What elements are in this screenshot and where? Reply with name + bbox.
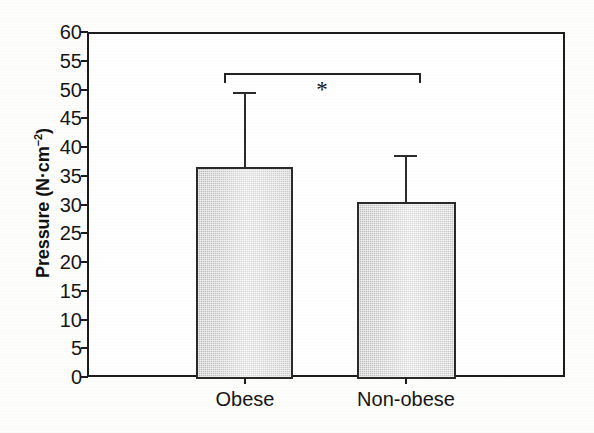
y-tick-label-40: 40 bbox=[38, 137, 82, 157]
x-tick-label-obese: Obese bbox=[216, 388, 275, 411]
significance-bracket-line bbox=[224, 73, 421, 75]
error-bar-cap-non-obese bbox=[394, 155, 417, 157]
x-tick-mark-non-obese bbox=[405, 377, 407, 384]
y-tick-label-0: 0 bbox=[38, 367, 82, 387]
error-bar-cap-obese bbox=[233, 92, 256, 94]
figure-container: Pressure (N·cm−2) 60 55 50 45 40 35 30 2… bbox=[0, 0, 594, 433]
bar-obese[interactable] bbox=[196, 167, 293, 379]
y-tick-label-10: 10 bbox=[38, 310, 82, 330]
error-bar-stem-non-obese bbox=[405, 155, 407, 203]
y-tick-label-30: 30 bbox=[38, 195, 82, 215]
y-tick-label-15: 15 bbox=[38, 281, 82, 301]
x-tick-label-non-obese: Non-obese bbox=[357, 388, 455, 411]
y-tick-label-60: 60 bbox=[38, 22, 82, 42]
y-tick-label-55: 55 bbox=[38, 51, 82, 71]
significance-bracket-right-tick bbox=[419, 73, 421, 83]
y-tick-label-5: 5 bbox=[38, 338, 82, 358]
y-tick-label-25: 25 bbox=[38, 223, 82, 243]
y-tick-label-20: 20 bbox=[38, 252, 82, 272]
y-axis-tick-labels: 60 55 50 45 40 35 30 25 20 15 10 5 0 bbox=[30, 0, 82, 433]
y-tick-label-45: 45 bbox=[38, 108, 82, 128]
significance-bracket-left-tick bbox=[224, 73, 226, 83]
y-tick-label-35: 35 bbox=[38, 166, 82, 186]
bar-non-obese[interactable] bbox=[357, 202, 456, 379]
significance-asterisk: * bbox=[316, 78, 328, 101]
y-tick-label-50: 50 bbox=[38, 80, 82, 100]
x-tick-mark-obese bbox=[244, 377, 246, 384]
error-bar-stem-obese bbox=[244, 92, 246, 168]
